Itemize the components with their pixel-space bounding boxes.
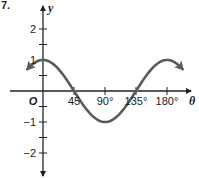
x-axis-label: θ bbox=[189, 94, 196, 108]
x-tick-label: 90° bbox=[97, 95, 114, 107]
x-tick-label: 135° bbox=[125, 95, 148, 107]
y-tick-label: −1 bbox=[23, 116, 36, 128]
y-tick-label: 2 bbox=[30, 23, 36, 35]
y-tick-label: 1 bbox=[30, 54, 36, 66]
problem-number: 7. bbox=[1, 0, 10, 11]
y-tick-label: −2 bbox=[23, 147, 36, 159]
axes bbox=[10, 6, 191, 176]
y-axis-label: y bbox=[46, 1, 54, 15]
x-tick-label: 45 bbox=[68, 95, 80, 107]
labels: 4590°135°180°21−1−2yθO7. bbox=[1, 0, 196, 159]
origin-label: O bbox=[29, 95, 38, 107]
x-tick-label: 180° bbox=[156, 95, 179, 107]
cosine-graph: 4590°135°180°21−1−2yθO7. bbox=[0, 0, 199, 179]
